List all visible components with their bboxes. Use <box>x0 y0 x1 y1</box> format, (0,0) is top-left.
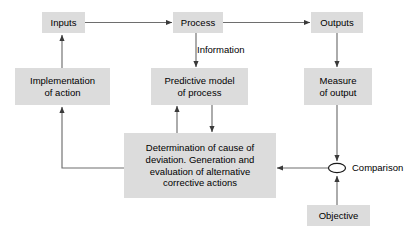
diagram-canvas: Inputs Process Outputs Implementation of… <box>0 0 420 237</box>
comparison-ellipse <box>329 163 346 172</box>
node-predictive-label: Predictive model of process <box>164 75 234 99</box>
node-outputs-label: Outputs <box>320 17 353 29</box>
node-outputs[interactable]: Outputs <box>311 12 363 33</box>
node-inputs[interactable]: Inputs <box>42 12 85 33</box>
node-process[interactable]: Process <box>173 12 223 33</box>
node-comparison-label: Comparison <box>352 162 403 173</box>
edge-determination-implementation <box>62 107 124 168</box>
connector-layer <box>0 0 420 237</box>
node-determination-label: Determination of cause of deviation. Gen… <box>146 142 255 189</box>
node-process-label: Process <box>181 17 215 29</box>
node-determination-of-cause[interactable]: Determination of cause of deviation. Gen… <box>124 133 276 198</box>
node-implementation-of-action[interactable]: Implementation of action <box>15 68 110 105</box>
node-predictive-model-of-process[interactable]: Predictive model of process <box>151 68 248 105</box>
node-measure-of-output[interactable]: Measure of output <box>304 68 372 105</box>
edge-label-information: Information <box>197 44 245 55</box>
node-objective-label: Objective <box>319 210 359 222</box>
node-inputs-label: Inputs <box>51 17 77 29</box>
node-implementation-label: Implementation of action <box>30 75 95 99</box>
node-objective[interactable]: Objective <box>307 205 370 226</box>
node-measure-label: Measure of output <box>320 75 357 99</box>
